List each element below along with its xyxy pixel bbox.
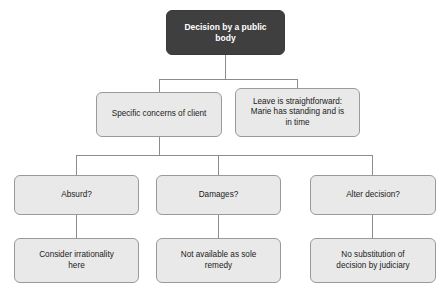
connector-root-bar — [159, 79, 298, 80]
node-specific-concerns-of-client-label: Specific concerns of client — [97, 109, 221, 119]
node-not-available-as-sole-remedy[interactable]: Not available as sole remedy — [156, 238, 281, 283]
node-absurd[interactable]: Absurd? — [14, 175, 139, 215]
node-consider-irrationality-here[interactable]: Consider irrationality here — [14, 238, 139, 283]
connector-row3-bar — [76, 155, 373, 156]
node-damages[interactable]: Damages? — [156, 175, 281, 215]
node-damages-label: Damages? — [157, 190, 280, 200]
node-not-available-as-sole-remedy-label: Not available as sole remedy — [157, 250, 280, 271]
connector-damages-to-not-available — [218, 215, 219, 238]
node-decision-by-public-body[interactable]: Decision by a public body — [166, 10, 285, 55]
node-specific-concerns-of-client[interactable]: Specific concerns of client — [96, 92, 222, 137]
node-leave-is-straightforward[interactable]: Leave is straightforward: Marie has stan… — [235, 88, 360, 137]
connector-root-to-specific-concerns — [159, 79, 160, 92]
connector-to-damages — [218, 155, 219, 175]
connector-alter-decision-to-no-substitution — [372, 215, 373, 238]
node-no-substitution-of-decision-by-judiciary-label: No substitution of decision by judiciary — [311, 250, 435, 271]
connector-root-stem — [225, 55, 226, 79]
node-leave-is-straightforward-label: Leave is straightforward: Marie has stan… — [236, 97, 359, 128]
node-absurd-label: Absurd? — [15, 190, 138, 200]
flowchart-canvas: Decision by a public body Specific conce… — [0, 0, 446, 297]
connector-specific-concerns-stem — [159, 137, 160, 155]
node-consider-irrationality-here-label: Consider irrationality here — [15, 250, 138, 271]
node-decision-by-public-body-label: Decision by a public body — [167, 22, 284, 43]
connector-to-alter-decision — [372, 155, 373, 175]
connector-absurd-to-consider-irrationality — [76, 215, 77, 238]
node-no-substitution-of-decision-by-judiciary[interactable]: No substitution of decision by judiciary — [310, 238, 436, 283]
connector-root-to-leave — [297, 79, 298, 88]
node-alter-decision[interactable]: Alter decision? — [310, 175, 436, 215]
node-alter-decision-label: Alter decision? — [311, 190, 435, 200]
connector-to-absurd — [76, 155, 77, 175]
